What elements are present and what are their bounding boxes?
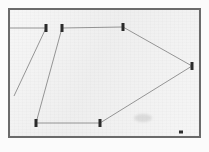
traverse-vector-layer [10, 10, 199, 136]
corner-dot [179, 131, 183, 134]
station-marker-B [61, 24, 64, 32]
traverse-edge-F-B [36, 28, 62, 123]
station-marker-E [99, 119, 102, 127]
traverse-edge-B-C [62, 27, 123, 28]
station-marker-A [45, 24, 48, 32]
station-marker-D [191, 62, 194, 70]
traverse-edge-A-tail [14, 28, 46, 96]
figure-canvas [0, 0, 209, 152]
station-marker-F [35, 119, 38, 127]
station-marker-C [122, 23, 125, 31]
traverse-edge-C-D [123, 27, 192, 66]
pencil-smudge [134, 114, 152, 122]
